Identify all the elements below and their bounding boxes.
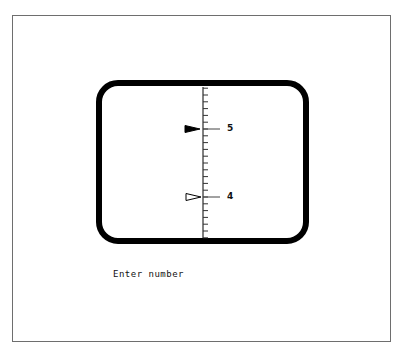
- hollow-pointer-icon: [186, 194, 201, 201]
- enter-number-prompt: Enter number: [113, 269, 184, 279]
- scale-label-5: 5: [227, 123, 233, 133]
- vertical-scale: [0, 0, 403, 355]
- scale-ticks: [203, 88, 208, 238]
- filled-pointer-icon: [185, 126, 200, 133]
- scale-label-4: 4: [227, 191, 233, 201]
